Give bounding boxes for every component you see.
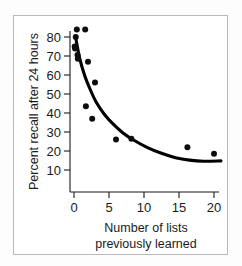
data-point [184,144,190,150]
data-point [74,26,80,32]
x-tick-label: 15 [172,200,186,215]
x-tick-label-group: 05101520 [70,200,221,215]
y-tick-label: 20 [47,144,61,159]
figure-root: 1020304050607080 05101520 Percent recall… [0,0,242,266]
y-tick-label: 50 [47,87,61,102]
x-tick-label: 10 [137,200,151,215]
data-point [75,56,81,62]
fitted-curve [76,38,221,161]
y-tick-label: 60 [47,68,61,83]
x-tick-label: 5 [105,200,112,215]
y-axis: 1020304050607080 [47,30,70,193]
x-tick-group [74,192,214,198]
data-point [83,103,89,109]
y-tick-label: 30 [47,125,61,140]
y-axis-title: Percent recall after 24 hours [27,33,41,190]
x-axis: 05101520 [70,192,221,215]
x-axis-title-line2: previously learned [95,237,196,251]
x-tick-label: 20 [207,200,221,215]
data-point-group [72,26,217,156]
y-tick-label: 80 [47,30,61,45]
data-point [211,151,217,157]
y-tick-label-group: 1020304050607080 [47,30,61,178]
data-point [73,34,79,40]
y-tick-label: 40 [47,106,61,121]
data-point [85,59,91,65]
data-point [113,137,119,143]
data-point [89,116,95,122]
data-point [72,45,78,51]
scatter-plot: 1020304050607080 05101520 Percent recall… [0,0,242,266]
data-point [128,136,134,142]
y-tick-label: 10 [47,163,61,178]
x-axis-title-line1: Number of lists [104,221,187,235]
data-point [82,26,88,32]
y-tick-label: 70 [47,49,61,64]
x-tick-label: 0 [70,200,77,215]
data-point [92,80,98,86]
y-tick-group [64,37,70,170]
